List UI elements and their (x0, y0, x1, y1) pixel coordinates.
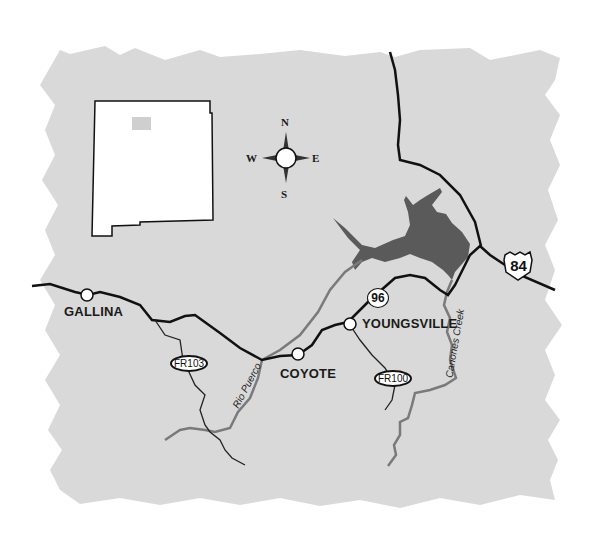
fr100-route-marker: FR100 (374, 370, 412, 387)
town-label-gallina: GALLINA (64, 304, 123, 319)
inset-highlight (132, 117, 151, 130)
compass-west-label: W (246, 152, 257, 164)
us84-route-number: 84 (505, 257, 532, 274)
fr103-route-marker: FR103 (170, 355, 208, 372)
town-label-youngsville: YOUNGSVILLE (362, 316, 457, 331)
coyote-town-marker (292, 348, 304, 360)
town-label-coyote: COYOTE (280, 366, 336, 381)
compass-south-label: S (281, 188, 287, 200)
new-mexico-outline-icon (92, 101, 213, 236)
youngsville-town-marker (344, 318, 356, 330)
compass-east-label: E (312, 152, 319, 164)
state96-route-shield: 96 (367, 288, 389, 308)
compass-north-label: N (281, 116, 289, 128)
gallina-town-marker (81, 289, 93, 301)
map-canvas (0, 0, 589, 534)
